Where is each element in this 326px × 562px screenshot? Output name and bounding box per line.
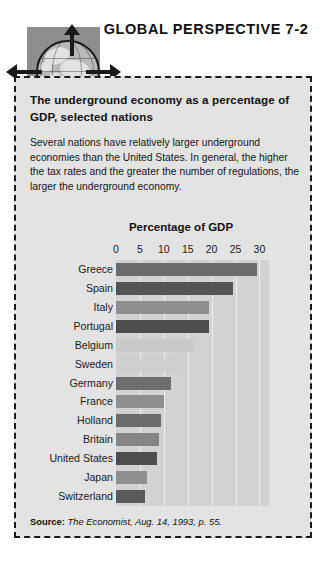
x-tick-0: 0 <box>113 243 119 255</box>
bar-row <box>116 298 269 317</box>
plot-area <box>116 260 269 506</box>
bar-row <box>116 355 269 374</box>
category-label-italy: Italy <box>94 301 113 314</box>
bar-holland <box>116 414 161 427</box>
chart-title: Percentage of GDP <box>91 221 271 233</box>
perspective-panel: The underground economy as a percentage … <box>14 76 312 538</box>
bar-row <box>116 411 269 430</box>
bar-row <box>116 487 269 506</box>
source-line: Source: The Economist, Aug. 14, 1993, p.… <box>30 516 302 527</box>
category-label-germany: Germany <box>69 377 113 390</box>
x-axis-tick-labels: 051015202530 <box>16 243 314 257</box>
category-label-spain: Spain <box>86 282 113 295</box>
bar-portugal <box>116 320 209 333</box>
global-perspective-header: GLOBAL PERSPECTIVE 7-2 <box>0 0 326 78</box>
bar-united-states <box>116 452 157 465</box>
category-label-france: France <box>80 395 113 408</box>
bar-greece <box>116 263 257 276</box>
category-label-portugal: Portugal <box>74 320 113 333</box>
bar-switzerland <box>116 490 145 503</box>
bar-row <box>116 374 269 393</box>
category-label-holland: Holland <box>77 414 113 427</box>
category-label-belgium: Belgium <box>75 339 113 352</box>
bar-germany <box>116 377 171 390</box>
category-label-sweden: Sweden <box>75 358 113 371</box>
bar-spain <box>116 282 233 295</box>
bar-row <box>116 430 269 449</box>
page-title: GLOBAL PERSPECTIVE 7-2 <box>92 22 320 37</box>
x-tick-5: 5 <box>137 243 143 255</box>
bar-sweden <box>116 358 183 371</box>
underground-economy-bar-chart: Percentage of GDP 051015202530 GreeceSpa… <box>16 78 314 540</box>
bar-row <box>116 260 269 279</box>
x-tick-10: 10 <box>158 243 170 255</box>
category-label-switzerland: Switzerland <box>58 490 113 503</box>
bar-belgium <box>116 339 193 352</box>
category-label-greece: Greece <box>78 263 113 276</box>
bar-row <box>116 336 269 355</box>
x-tick-15: 15 <box>182 243 194 255</box>
source-text: The Economist, Aug. 14, 1993, p. 55. <box>68 516 222 527</box>
bar-row <box>116 279 269 298</box>
bar-japan <box>116 471 147 484</box>
x-tick-30: 30 <box>254 243 266 255</box>
x-tick-20: 20 <box>206 243 218 255</box>
bar-row <box>116 468 269 487</box>
bar-italy <box>116 301 209 314</box>
bar-row <box>116 392 269 411</box>
bar-france <box>116 395 164 408</box>
category-label-japan: Japan <box>84 471 113 484</box>
category-label-united-states: United States <box>49 452 113 465</box>
bar-britain <box>116 433 159 446</box>
bar-row <box>116 317 269 336</box>
bar-row <box>116 449 269 468</box>
source-label: Source: <box>30 516 65 527</box>
category-label-britain: Britain <box>83 433 113 446</box>
x-tick-25: 25 <box>230 243 242 255</box>
